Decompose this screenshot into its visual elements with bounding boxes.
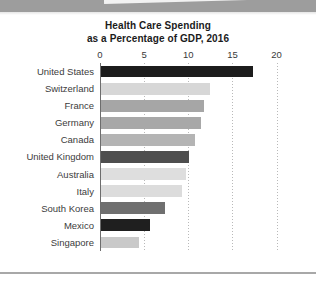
bar-canada (101, 134, 195, 146)
category-label-france: France (0, 97, 94, 114)
bar-switzerland (101, 83, 210, 95)
bar-row: United States (0, 63, 316, 80)
bar-row: Singapore (0, 234, 316, 251)
x-tick-label-5: 5 (129, 49, 159, 60)
bar-italy (101, 185, 182, 197)
x-tick-label-15: 15 (217, 49, 247, 60)
category-label-united-kingdom: United Kingdom (0, 148, 94, 165)
chart-title-line-1: Health Care Spending (0, 19, 316, 32)
bar-germany (101, 117, 201, 129)
banner-highlight-streak (104, 0, 314, 4)
bar-singapore (101, 237, 139, 249)
x-tick-label-10: 10 (173, 49, 203, 60)
bar-row: Australia (0, 166, 316, 183)
plot-area: 05101520 United StatesSwitzerlandFranceG… (0, 49, 316, 264)
bar-row: France (0, 97, 316, 114)
bar-united-states (101, 66, 253, 78)
bar-row: Mexico (0, 217, 316, 234)
bar-row: Italy (0, 183, 316, 200)
bar-mexico (101, 219, 150, 231)
page-top-banner (0, 0, 316, 12)
bar-row: South Korea (0, 200, 316, 217)
x-tick-label-0: 0 (85, 49, 115, 60)
bar-rows: United StatesSwitzerlandFranceGermanyCan… (0, 63, 316, 251)
category-label-canada: Canada (0, 131, 94, 148)
bar-france (101, 100, 204, 112)
bar-row: Germany (0, 114, 316, 131)
bar-row: United Kingdom (0, 148, 316, 165)
bar-row: Canada (0, 131, 316, 148)
bar-chart: Health Care Spending as a Percentage of … (0, 15, 316, 270)
bar-row: Switzerland (0, 80, 316, 97)
category-label-mexico: Mexico (0, 217, 94, 234)
chart-title: Health Care Spending as a Percentage of … (0, 19, 316, 45)
category-label-switzerland: Switzerland (0, 80, 94, 97)
bar-south-korea (101, 202, 165, 214)
x-tick-label-20: 20 (262, 49, 292, 60)
bar-australia (101, 168, 186, 180)
category-label-italy: Italy (0, 183, 94, 200)
category-label-germany: Germany (0, 114, 94, 131)
category-label-united-states: United States (0, 63, 94, 80)
category-label-australia: Australia (0, 166, 94, 183)
bar-united-kingdom (101, 151, 189, 163)
category-label-south-korea: South Korea (0, 200, 94, 217)
chart-title-line-2: as a Percentage of GDP, 2016 (0, 32, 316, 45)
page-bottom-rule (0, 272, 316, 274)
category-label-singapore: Singapore (0, 234, 94, 251)
